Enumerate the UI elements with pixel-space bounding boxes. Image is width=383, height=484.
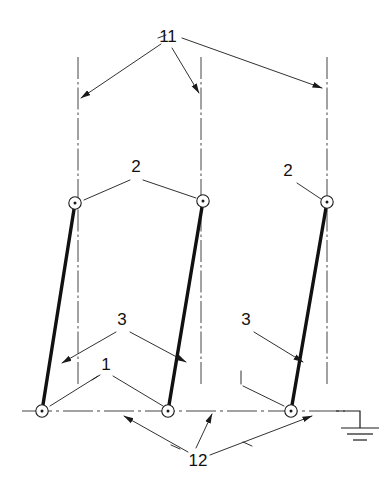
ground-lead-line (336, 411, 360, 428)
leader-11-to-middle-centerline (172, 48, 199, 93)
link-middle (168, 201, 203, 411)
leader-11-to-right-centerline (182, 38, 322, 88)
ground-earth-symbol (336, 411, 379, 440)
link-left (42, 203, 75, 411)
joint-upper-right (321, 196, 333, 208)
leader-1-right-to-lower-right-joint (243, 386, 284, 406)
leader-1-tick-left (92, 375, 100, 380)
leader-group-12 (124, 414, 312, 455)
label-group: 11 2 2 3 3 1 12 (101, 27, 292, 470)
leader-group-2-right (297, 183, 321, 199)
leader-12-to-axis-middle (196, 414, 212, 448)
leader-group-3-right (254, 332, 303, 362)
kinematic-linkage-diagram: 11 2 2 3 3 1 12 (0, 0, 383, 484)
leader-2-left-to-upper-left-joint (84, 180, 130, 200)
leader-12-to-axis-left (124, 416, 188, 452)
leader-12-tick-right (243, 442, 252, 446)
joint-lower-right (285, 405, 297, 417)
leader-11-to-left-centerline (81, 44, 161, 98)
leader-1-to-lower-middle-joint (113, 376, 163, 406)
leader-group-11 (81, 35, 322, 98)
leader-group-1 (50, 375, 163, 406)
joint-lower-left (36, 405, 48, 417)
leader-group-1-right (241, 371, 284, 406)
leader-group-3-left (62, 332, 186, 363)
label-1: 1 (101, 355, 110, 374)
label-3-left: 3 (117, 310, 126, 329)
centerline-group (78, 57, 327, 385)
link-group (42, 201, 327, 411)
leader-12-to-axis-right (210, 416, 312, 455)
leader-group-2-left (84, 180, 196, 200)
diagram-canvas: 11 2 2 3 3 1 12 (0, 0, 383, 484)
link-right (291, 202, 327, 411)
label-2-right: 2 (283, 161, 292, 180)
joint-upper-left (69, 197, 81, 209)
label-2-left: 2 (131, 157, 140, 176)
label-3-right: 3 (241, 310, 250, 329)
joint-lower-middle (162, 405, 174, 417)
label-12: 12 (189, 451, 208, 470)
label-11: 11 (159, 27, 177, 46)
leader-1-to-lower-left-joint (50, 376, 98, 406)
leader-2-left-to-upper-middle-joint (143, 180, 196, 198)
joint-upper-middle (197, 195, 209, 207)
leader-2-right-to-upper-right-joint (297, 183, 321, 199)
leader-3-right-to-link-right (254, 332, 303, 362)
